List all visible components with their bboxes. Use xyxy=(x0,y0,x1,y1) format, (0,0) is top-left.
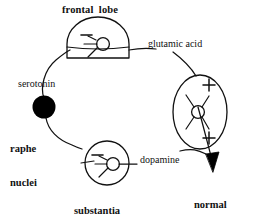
striatum-spoke-upper-left xyxy=(186,95,194,107)
substantia-nigra-label-line1: substantia xyxy=(74,205,120,216)
raphe-nuclei-label-line1: raphe xyxy=(10,143,37,154)
raphe-nuclei-label: raphe nuclei xyxy=(10,120,37,211)
striatum-spoke-lower-left xyxy=(186,117,194,129)
substantia-nigra-afferent-line xyxy=(81,161,94,163)
raphe-nuclei-shape xyxy=(33,96,56,119)
substantia-nigra-spoke-lower xyxy=(99,168,108,177)
frontal-lobe-spoke-upper xyxy=(88,36,96,40)
normal-motor-functions-label-line1: normal xyxy=(194,199,235,210)
glutamic-acid-label: glutamic acid xyxy=(148,39,202,50)
normal-motor-functions-label: normal motor functions xyxy=(194,176,235,222)
frontal-lobe-label: frontal lobe xyxy=(62,4,118,15)
glutamic-acid-pathway-line xyxy=(173,52,196,76)
raphe-nuclei-label-line2: nuclei xyxy=(10,177,37,188)
frontal-lobe-shape xyxy=(67,17,129,58)
neurotransmitter-pathway-diagram: frontal lobe glutamic acid serotonin rap… xyxy=(0,0,266,222)
striatum-spoke-upper-right xyxy=(202,96,209,107)
substantia-nigra-neuron xyxy=(92,155,119,177)
striatum-neuron xyxy=(186,79,215,144)
substantia-nigra-shape xyxy=(81,141,129,185)
dopamine-pathway-line xyxy=(180,150,206,154)
serotonin-label: serotonin xyxy=(18,79,55,90)
serotonin-pathway-line xyxy=(43,50,71,98)
substantia-nigra-spoke-upper xyxy=(99,156,107,160)
substantia-nigra-soma-circle xyxy=(107,158,120,171)
striatum-plus-upper-icon xyxy=(203,79,215,91)
dopamine-label: dopamine xyxy=(140,155,179,166)
output-arrow-head xyxy=(206,152,219,172)
frontal-lobe-outline xyxy=(67,17,129,58)
raphe-to-substantia-nigra-line xyxy=(46,118,82,149)
substantia-nigra-label: substantia nigra xyxy=(74,182,120,222)
frontal-lobe-neuron xyxy=(81,35,109,57)
